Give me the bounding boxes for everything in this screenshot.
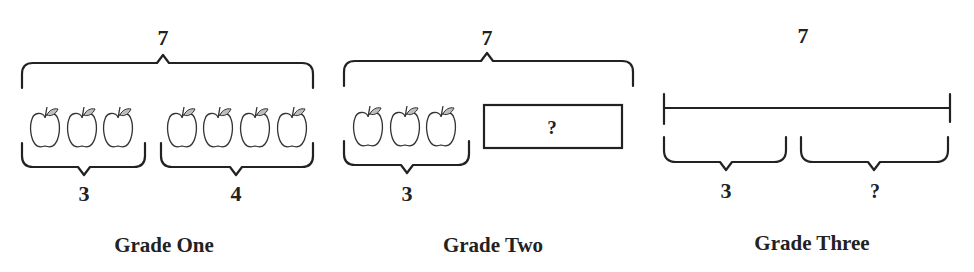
grade-three-label: Grade Three — [754, 231, 869, 255]
grade-three-segment-line — [664, 94, 950, 124]
grade-two-total: 7 — [482, 25, 493, 50]
apple-icon — [241, 107, 270, 147]
grade-two-part-three: 3 — [402, 181, 413, 206]
apple-icon — [204, 107, 233, 147]
grade-three-total: 7 — [798, 23, 809, 48]
grade-three-part-unknown: ? — [870, 180, 880, 202]
apple-icon — [31, 107, 60, 147]
grade-two-top-brace — [344, 53, 633, 86]
apple-icon — [391, 106, 420, 146]
apple-icon — [168, 107, 197, 147]
grade-two-unknown-mark: ? — [547, 117, 557, 138]
grade-three-part-three: 3 — [721, 178, 732, 203]
grade-one-diagram: 7 3 4 Grade One — [22, 25, 313, 257]
grade-one-group-four-apples — [168, 107, 307, 147]
apple-icon — [354, 106, 383, 146]
apple-icon — [68, 107, 97, 147]
grade-one-right-brace — [161, 143, 313, 175]
grade-one-part-four: 4 — [231, 181, 242, 206]
part-whole-diagrams: 7 3 4 Grade One 7 ? 3 Gr — [0, 0, 974, 272]
apple-icon — [427, 106, 456, 146]
grade-three-diagram: 7 3 ? Grade Three — [664, 23, 950, 255]
grade-two-label: Grade Two — [443, 233, 543, 257]
grade-three-left-brace — [664, 137, 786, 170]
grade-three-right-brace — [801, 137, 948, 170]
grade-one-label: Grade One — [114, 233, 214, 257]
apple-icon — [278, 107, 307, 147]
grade-two-apples — [354, 106, 456, 146]
grade-one-left-brace — [22, 143, 145, 175]
grade-one-part-three: 3 — [79, 181, 90, 206]
grade-two-diagram: 7 ? 3 Grade Two — [344, 25, 633, 257]
grade-one-group-three-apples — [31, 107, 133, 147]
grade-one-top-brace — [22, 55, 313, 88]
grade-one-total: 7 — [158, 25, 169, 50]
apple-icon — [104, 107, 133, 147]
